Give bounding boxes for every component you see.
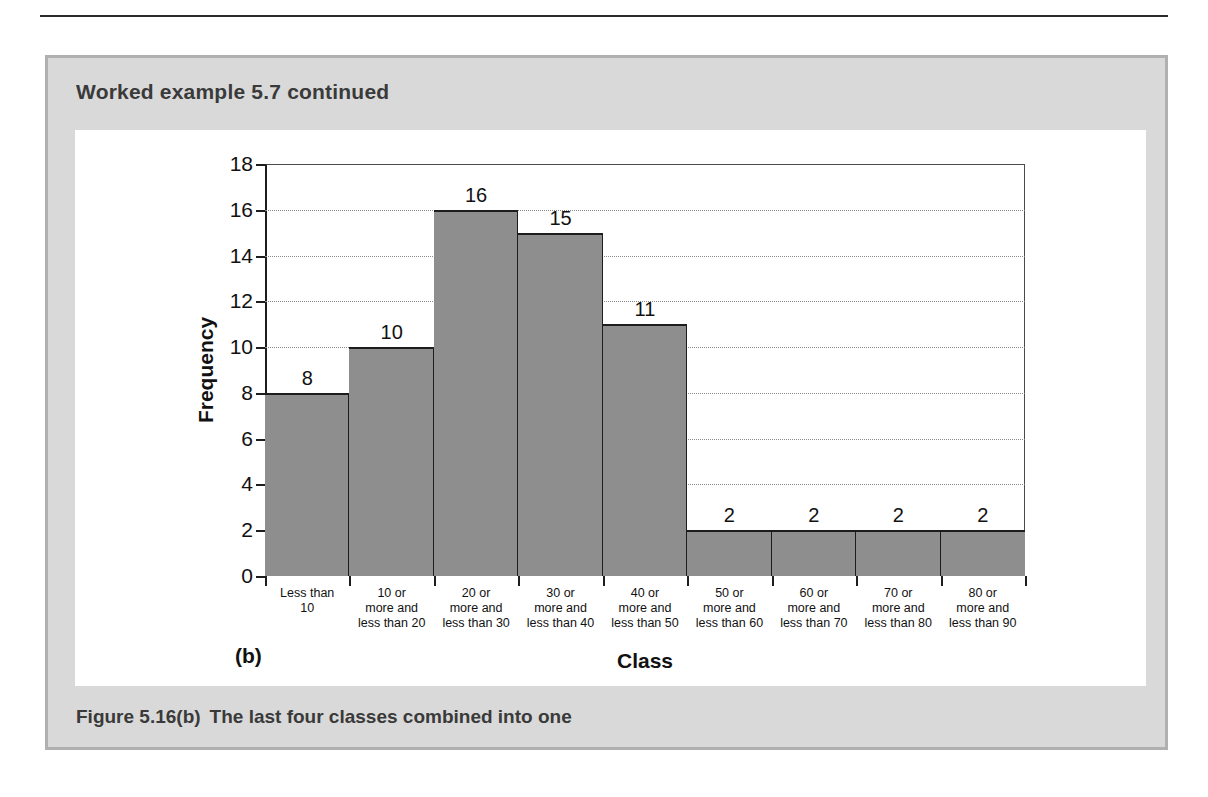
histogram-plot: Frequency 024681012141618 8101615112222 — [265, 164, 1025, 576]
bar-column: 2 — [687, 164, 771, 576]
y-tick-mark — [256, 530, 265, 532]
bar-series: 8101615112222 — [265, 164, 1025, 576]
x-axis-category-label: 20 ormore andless than 30 — [434, 586, 518, 631]
x-axis-category-label: 80 ormore andless than 90 — [941, 586, 1025, 631]
bar-rect — [265, 393, 349, 576]
panel-letter: (b) — [235, 644, 262, 668]
x-tick-mark — [265, 576, 267, 586]
x-tick-mark — [603, 576, 605, 586]
x-tick-mark — [434, 576, 436, 586]
x-tick-mark — [772, 576, 774, 586]
x-axis-title: Class — [265, 649, 1025, 673]
y-tick-label: 16 — [230, 198, 253, 222]
y-tick-label: 4 — [241, 472, 253, 496]
bar-rect — [772, 530, 856, 576]
y-tick-label: 6 — [241, 427, 253, 451]
x-tick-mark — [687, 576, 689, 586]
y-tick-mark — [256, 210, 265, 212]
y-tick-mark — [256, 393, 265, 395]
bar-rect — [349, 347, 433, 576]
y-tick-mark — [256, 347, 265, 349]
y-tick-label: 0 — [241, 564, 253, 588]
y-tick-mark — [256, 576, 265, 578]
y-tick-mark — [256, 256, 265, 258]
y-tick-mark — [256, 164, 265, 166]
x-tick-mark — [941, 576, 943, 586]
figure-caption-text: The last four classes combined into one — [210, 706, 572, 727]
bar-value-label: 2 — [772, 504, 856, 527]
bar-rect — [518, 233, 602, 576]
page-top-rule — [40, 15, 1168, 17]
bar-column: 10 — [349, 164, 433, 576]
bar-value-label: 15 — [518, 207, 602, 230]
y-tick-label: 18 — [230, 152, 253, 176]
bar-rect — [434, 210, 518, 576]
x-tick-mark — [856, 576, 858, 586]
bar-column: 11 — [603, 164, 687, 576]
y-tick-label: 12 — [230, 289, 253, 313]
bar-column: 16 — [434, 164, 518, 576]
bar-value-label: 2 — [941, 504, 1025, 527]
y-tick-label: 2 — [241, 518, 253, 542]
figure-caption: Figure 5.16(b)The last four classes comb… — [76, 706, 572, 728]
bar-column: 2 — [772, 164, 856, 576]
bar-value-label: 10 — [349, 321, 433, 344]
x-axis-category-label: 10 ormore andless than 20 — [349, 586, 433, 631]
x-axis-category-label: 50 ormore andless than 60 — [687, 586, 771, 631]
bar-rect — [603, 324, 687, 576]
x-tick-mark — [518, 576, 520, 586]
bar-column: 2 — [856, 164, 940, 576]
y-tick-mark — [256, 484, 265, 486]
y-tick-label: 14 — [230, 244, 253, 268]
x-axis-category-label: 70 ormore andless than 80 — [856, 586, 940, 631]
y-tick-mark — [256, 439, 265, 441]
bar-value-label: 8 — [265, 367, 349, 390]
bar-value-label: 2 — [856, 504, 940, 527]
bar-rect — [687, 530, 771, 576]
x-axis-category-label: 60 ormore andless than 70 — [772, 586, 856, 631]
y-tick-label: 8 — [241, 381, 253, 405]
bar-column: 15 — [518, 164, 602, 576]
worked-example-title: Worked example 5.7 continued — [76, 80, 389, 104]
x-axis-category-labels: Less than1010 ormore andless than 2020 o… — [265, 586, 1025, 631]
bar-value-label: 16 — [434, 184, 518, 207]
worked-example-box: Worked example 5.7 continued Frequency 0… — [45, 55, 1168, 750]
bar-value-label: 11 — [603, 298, 687, 321]
x-axis-category-label: Less than10 — [265, 586, 349, 631]
x-tick-mark — [349, 576, 351, 586]
x-axis-category-label: 40 ormore andless than 50 — [603, 586, 687, 631]
bar-column: 2 — [941, 164, 1025, 576]
bar-value-label: 2 — [687, 504, 771, 527]
y-axis-title: Frequency — [194, 317, 218, 423]
x-axis-category-label: 30 ormore andless than 40 — [518, 586, 602, 631]
y-tick-label: 10 — [230, 335, 253, 359]
bar-rect — [856, 530, 940, 576]
x-tick-mark — [1025, 576, 1027, 586]
bar-column: 8 — [265, 164, 349, 576]
bar-rect — [941, 530, 1025, 576]
figure-caption-number: Figure 5.16(b) — [76, 706, 201, 727]
chart-panel: Frequency 024681012141618 8101615112222 … — [75, 130, 1146, 686]
y-tick-mark — [256, 301, 265, 303]
